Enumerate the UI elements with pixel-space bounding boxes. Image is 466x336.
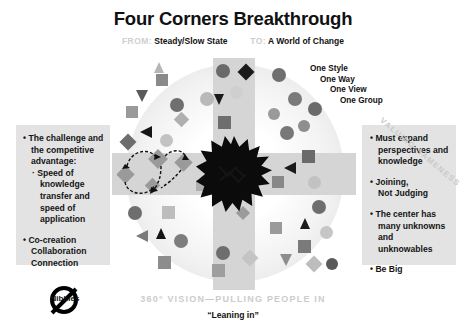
left-panel-subline: knowledge <box>32 179 104 191</box>
shape-circle <box>320 226 333 239</box>
shape-circle <box>272 68 286 82</box>
one-style-list: One StyleOne WayOne ViewOne Group <box>300 64 410 106</box>
shape-triangle <box>154 62 164 73</box>
shape-square <box>272 176 284 188</box>
to-value: A World of Change <box>268 36 344 46</box>
left-panel-line: the competitive <box>23 145 104 157</box>
left-insight-panel: • The challenge andthe competitiveadvant… <box>16 125 110 265</box>
shape-circle <box>174 234 188 248</box>
shape-triangle <box>284 162 296 174</box>
shape-circle <box>216 246 230 260</box>
one-list-item: One Group <box>300 96 410 107</box>
no-nibbles-badge: Nibbles <box>42 285 88 323</box>
shape-triangle <box>156 228 166 239</box>
right-panel-line: • Be Big <box>370 264 450 276</box>
shape-triangle <box>136 90 148 102</box>
from-label: FROM: <box>122 36 152 46</box>
shape-circle <box>230 86 243 99</box>
breakthrough-starburst-icon <box>196 136 272 212</box>
shape-circle <box>312 200 326 214</box>
diamond-loop-cluster <box>117 146 207 198</box>
shape-square <box>270 222 282 234</box>
left-panel-subline: application <box>32 214 104 226</box>
from-value: Steady/Slow State <box>154 36 227 46</box>
to-label: TO: <box>250 36 266 46</box>
left-panel-line: • Co-creation <box>23 235 104 247</box>
from-to-subtitle: FROM: Steady/Slow State TO: A World of C… <box>0 36 466 46</box>
right-panel-line: • Joining, <box>370 177 450 189</box>
shape-triangle <box>214 94 224 105</box>
one-list-item: One View <box>300 85 410 96</box>
left-panel-subline: speed of <box>32 203 104 215</box>
nibbles-label: Nibbles <box>42 294 88 303</box>
shape-circle <box>216 64 230 78</box>
right-panel-line: • The center has <box>370 209 450 221</box>
shape-square <box>158 256 171 269</box>
shape-circle <box>326 258 338 270</box>
shape-circle <box>170 98 184 112</box>
shape-triangle <box>136 230 148 242</box>
one-list-item: One Style <box>300 64 410 75</box>
left-panel-subline: transfer and <box>32 191 104 203</box>
one-list-item: One Way <box>300 75 410 86</box>
left-panel-line: • The challenge and <box>23 133 104 145</box>
left-panel-line: Collaboration <box>23 246 104 258</box>
shape-circle <box>268 108 280 120</box>
left-panel-line: advantage: <box>23 156 104 168</box>
poster-canvas: Four Corners Breakthrough FROM: Steady/S… <box>0 0 466 336</box>
shape-triangle <box>280 254 292 266</box>
shape-circle <box>280 126 294 140</box>
left-panel-item: • Co-creationCollaborationConnection <box>23 235 104 270</box>
shape-square <box>156 74 168 86</box>
right-panel-line: many unknowns <box>370 221 450 233</box>
left-panel-subline: · Speed of <box>32 168 104 180</box>
right-panel-line: and unknowables <box>370 232 450 255</box>
right-panel-item: • Joining,Not Judging <box>370 177 450 200</box>
shape-square <box>218 116 231 129</box>
shape-circle <box>298 120 310 132</box>
shape-triangle <box>140 126 152 138</box>
right-panel-item: • Be Big <box>370 264 450 276</box>
shape-square <box>126 106 138 118</box>
left-panel-subitem: · Speed ofknowledgetransfer andspeed ofa… <box>23 168 104 226</box>
shape-square <box>302 150 315 163</box>
shape-triangle <box>300 218 310 229</box>
shape-circle <box>200 92 214 106</box>
page-title: Four Corners Breakthrough <box>0 8 466 30</box>
shape-circle <box>308 176 321 189</box>
shape-square <box>212 264 225 277</box>
right-panel-line: Not Judging <box>370 188 450 200</box>
right-panel-item: • The center hasmany unknownsand unknowa… <box>370 209 450 255</box>
left-panel-item: • The challenge andthe competitiveadvant… <box>23 133 104 226</box>
left-panel-line: Connection <box>23 258 104 270</box>
shape-square <box>162 206 175 219</box>
shape-circle <box>128 206 142 220</box>
shape-square <box>298 240 311 253</box>
